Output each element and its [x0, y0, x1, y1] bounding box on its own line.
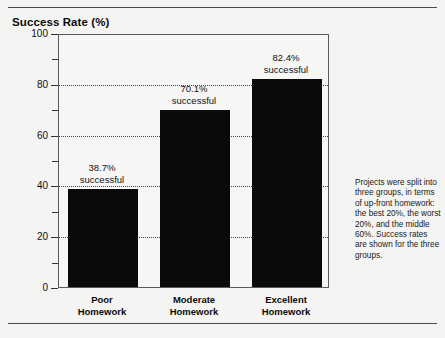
y-tick-label-80: 80 — [14, 80, 48, 90]
x-category-poor-line1: Poor — [52, 294, 152, 306]
chart-title: Success Rate (%) — [12, 16, 109, 28]
side-note-text: Projects were split into three groups, i… — [355, 178, 441, 261]
x-category-label-poor: Poor Homework — [52, 294, 152, 318]
y-tick-label-40: 40 — [14, 181, 48, 191]
top-divider-rule — [8, 7, 437, 8]
bar-moderate-homework — [160, 110, 230, 287]
y-tick-label-20: 20 — [14, 232, 48, 242]
bar-value-excellent: 82.4% — [273, 52, 300, 63]
figure-container: Success Rate (%) 100 80 60 40 20 0 38.7%… — [0, 0, 445, 338]
y-tick-mark-20 — [51, 237, 58, 238]
y-tick-label-0: 0 — [14, 283, 48, 293]
x-category-excellent-line1: Excellent — [236, 294, 336, 306]
bar-value-poor: 38.7% — [89, 162, 116, 173]
bar-excellent-homework — [252, 79, 322, 287]
x-category-moderate-line1: Moderate — [144, 294, 244, 306]
bar-poor-homework — [68, 189, 138, 287]
bar-value-annotation-moderate: 70.1% successful — [144, 83, 244, 106]
x-category-poor-line2: Homework — [52, 306, 152, 318]
x-category-excellent-line2: Homework — [236, 306, 336, 318]
y-tick-mark-40 — [51, 186, 58, 187]
bar-value-moderate: 70.1% — [181, 83, 208, 94]
x-category-moderate-line2: Homework — [144, 306, 244, 318]
bar-value-suffix-moderate: successful — [172, 95, 216, 106]
bar-value-suffix-poor: successful — [80, 174, 124, 185]
bar-value-annotation-excellent: 82.4% successful — [236, 52, 336, 75]
y-tick-mark-80 — [51, 85, 58, 86]
x-category-label-moderate: Moderate Homework — [144, 294, 244, 318]
y-tick-mark-100 — [51, 34, 58, 35]
y-tick-label-100: 100 — [14, 29, 48, 39]
y-tick-mark-0 — [51, 288, 58, 289]
x-category-label-excellent: Excellent Homework — [236, 294, 336, 318]
y-tick-label-60: 60 — [14, 131, 48, 141]
y-tick-mark-60 — [51, 136, 58, 137]
bar-value-suffix-excellent: successful — [264, 64, 308, 75]
bottom-divider-rule — [8, 323, 437, 324]
bar-value-annotation-poor: 38.7% successful — [52, 162, 152, 185]
